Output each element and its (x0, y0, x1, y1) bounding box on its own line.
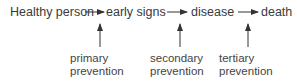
intervention-primary-line2: prevention (70, 65, 124, 78)
stage-early-signs: early signs (106, 5, 166, 19)
intervention-primary-line1: primary (70, 52, 108, 65)
intervention-secondary-line1: secondary (150, 52, 203, 65)
intervention-tertiary-line1: tertiary (219, 52, 254, 65)
intervention-secondary-line2: prevention (150, 65, 204, 78)
intervention-tertiary-line2: prevention (219, 65, 273, 78)
stage-healthy-person: Healthy person (10, 5, 94, 19)
stage-disease: disease (191, 5, 234, 19)
stage-death: death (261, 5, 292, 19)
